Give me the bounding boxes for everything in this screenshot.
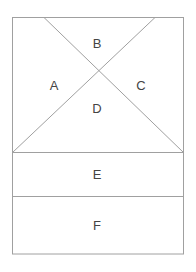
region-label-a: A xyxy=(50,78,59,93)
region-label-e: E xyxy=(93,167,102,182)
region-label-c: C xyxy=(136,78,145,93)
diagonal-left-to-right xyxy=(44,18,184,153)
region-label-b: B xyxy=(93,36,102,51)
region-label-f: F xyxy=(93,218,101,233)
diagonal-right-to-left xyxy=(13,18,156,153)
region-label-d: D xyxy=(92,101,101,116)
region-diagram: A B C D E F xyxy=(0,0,196,272)
